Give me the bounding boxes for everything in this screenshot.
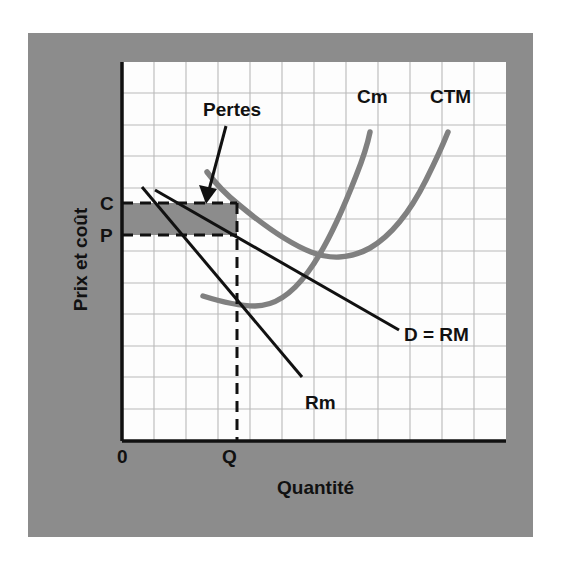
- curve-label-cm: Cm: [357, 87, 388, 106]
- origin-label: 0: [117, 447, 128, 466]
- monopoly-loss-figure: Prix et coût Quantité C P 0 Q Cm CTM D =…: [0, 0, 564, 569]
- x-axis-label: Quantité: [277, 478, 354, 497]
- y-axis-label: Prix et coût: [71, 175, 90, 345]
- y-tick-label-p: P: [100, 226, 113, 245]
- annotation-label-pertes: Pertes: [203, 100, 261, 119]
- curve-label-marginal-revenue: Rm: [305, 393, 336, 412]
- curve-label-ctm: CTM: [430, 87, 471, 106]
- y-tick-label-c: C: [100, 194, 114, 213]
- curve-label-demand: D = RM: [404, 325, 469, 344]
- x-tick-label-q: Q: [222, 447, 237, 466]
- demand-line: [155, 190, 399, 330]
